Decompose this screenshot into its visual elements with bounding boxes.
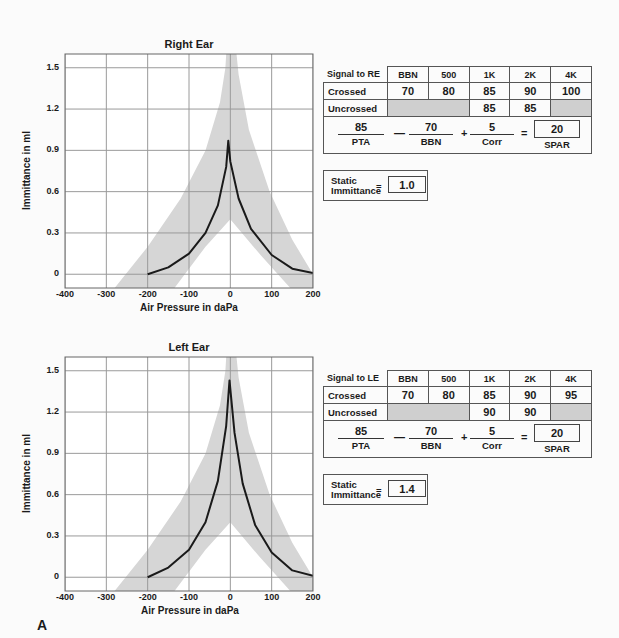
crossed-1k: 85 xyxy=(470,387,511,404)
spar-formula: 85 PTA — 70 BBN + 5 Corr = 20 SPAR xyxy=(323,117,592,154)
y-tick-label: 0 xyxy=(29,571,59,581)
col-bbn: BBN xyxy=(388,66,429,83)
x-tick-label: -300 xyxy=(91,592,121,602)
minus-sign: — xyxy=(394,127,405,139)
bbn-fraction: 70 BBN xyxy=(409,425,453,451)
col-bbn: BBN xyxy=(388,370,429,387)
crossed-label: Crossed xyxy=(323,83,388,100)
bbn-value: 70 xyxy=(409,121,453,135)
equals-sign: = xyxy=(521,127,527,139)
x-tick-label: 100 xyxy=(257,592,287,602)
uncrossed-row: Uncrossed 90 90 xyxy=(323,404,592,421)
bbn-fraction: 70 BBN xyxy=(409,121,453,147)
uncrossed-1k: 85 xyxy=(470,100,511,117)
uncrossed-label: Uncrossed xyxy=(323,404,388,421)
pta-fraction: 85 PTA xyxy=(338,121,384,147)
col-2k: 2K xyxy=(510,370,551,387)
signal-to-le-label: Signal to LE xyxy=(323,370,388,387)
corr-fraction: 5 Corr xyxy=(470,121,514,147)
left-ear-reflex-table: Signal to LE BBN 500 1K 2K 4K Crossed 70… xyxy=(323,370,592,458)
uncrossed-4k-shaded xyxy=(551,404,592,421)
minus-sign: — xyxy=(394,431,405,443)
pta-value: 85 xyxy=(338,425,384,439)
uncrossed-2k: 85 xyxy=(510,100,551,117)
left-ear-chart: Left Ear Immittance in ml Air Pressure i… xyxy=(0,0,330,300)
crossed-500: 80 xyxy=(429,83,470,100)
uncrossed-2k: 90 xyxy=(510,404,551,421)
right-static-immittance: StaticImmittance = 1.0 xyxy=(323,170,428,201)
x-tick-label: -400 xyxy=(50,592,80,602)
equals-sign: = xyxy=(521,431,527,443)
y-tick-label: 0.3 xyxy=(29,530,59,540)
corr-label: Corr xyxy=(470,135,514,147)
uncrossed-row: Uncrossed 85 85 xyxy=(323,100,592,117)
spar-formula: 85 PTA — 70 BBN + 5 Corr = 20 SPAR xyxy=(323,421,592,458)
y-tick-label: 1.2 xyxy=(29,406,59,416)
crossed-4k: 95 xyxy=(551,387,592,404)
figure-label: A xyxy=(37,617,47,633)
spar-value: 20 xyxy=(534,120,580,138)
col-500: 500 xyxy=(429,66,470,83)
pta-label: PTA xyxy=(338,135,384,147)
corr-value: 5 xyxy=(470,425,514,439)
crossed-bbn: 70 xyxy=(388,387,429,404)
col-500: 500 xyxy=(429,370,470,387)
uncrossed-4k-shaded xyxy=(551,100,592,117)
equals-sign: = xyxy=(376,181,382,192)
static-value: 1.0 xyxy=(388,176,426,193)
pta-fraction: 85 PTA xyxy=(338,425,384,451)
crossed-2k: 90 xyxy=(510,83,551,100)
right-ear-reflex-table: Signal to RE BBN 500 1K 2K 4K Crossed 70… xyxy=(323,66,592,154)
col-4k: 4K xyxy=(551,66,592,83)
x-tick-label: 200 xyxy=(298,592,328,602)
bbn-label: BBN xyxy=(409,135,453,147)
crossed-1k: 85 xyxy=(470,83,511,100)
left-ear-plot xyxy=(0,0,330,620)
crossed-label: Crossed xyxy=(323,387,388,404)
spar-label: SPAR xyxy=(534,443,580,454)
bbn-label: BBN xyxy=(409,439,453,451)
uncrossed-shaded xyxy=(388,100,470,117)
spar-label: SPAR xyxy=(534,139,580,150)
static-label: StaticImmittance xyxy=(331,480,381,500)
static-label: StaticImmittance xyxy=(331,176,381,196)
x-tick-label: -100 xyxy=(174,592,204,602)
corr-label: Corr xyxy=(470,439,514,451)
plus-sign: + xyxy=(461,431,467,443)
y-tick-label: 0.6 xyxy=(29,489,59,499)
bbn-value: 70 xyxy=(409,425,453,439)
col-1k: 1K xyxy=(470,66,511,83)
y-axis-label: Immittance in ml xyxy=(21,414,32,534)
y-tick-label: 1.5 xyxy=(29,365,59,375)
crossed-bbn: 70 xyxy=(388,83,429,100)
uncrossed-1k: 90 xyxy=(470,404,511,421)
col-4k: 4K xyxy=(551,370,592,387)
uncrossed-label: Uncrossed xyxy=(323,100,388,117)
col-2k: 2K xyxy=(510,66,551,83)
x-axis-label: Air Pressure in daPa xyxy=(66,605,314,616)
crossed-500: 80 xyxy=(429,387,470,404)
col-1k: 1K xyxy=(470,370,511,387)
crossed-row: Crossed 70 80 85 90 95 xyxy=(323,387,592,404)
crossed-row: Crossed 70 80 85 90 100 xyxy=(323,83,592,100)
spar-value: 20 xyxy=(534,424,580,442)
left-static-immittance: StaticImmittance = 1.4 xyxy=(323,474,428,505)
pta-label: PTA xyxy=(338,439,384,451)
crossed-2k: 90 xyxy=(510,387,551,404)
plus-sign: + xyxy=(461,127,467,139)
x-tick-label: 0 xyxy=(215,592,245,602)
header-row: Signal to RE BBN 500 1K 2K 4K xyxy=(323,66,592,83)
uncrossed-shaded xyxy=(388,404,470,421)
signal-to-re-label: Signal to RE xyxy=(323,66,388,83)
x-tick-label: -200 xyxy=(133,592,163,602)
static-value: 1.4 xyxy=(388,480,426,497)
header-row: Signal to LE BBN 500 1K 2K 4K xyxy=(323,370,592,387)
pta-value: 85 xyxy=(338,121,384,135)
corr-value: 5 xyxy=(470,121,514,135)
crossed-4k: 100 xyxy=(551,83,592,100)
y-tick-label: 0.9 xyxy=(29,447,59,457)
equals-sign: = xyxy=(376,485,382,496)
corr-fraction: 5 Corr xyxy=(470,425,514,451)
